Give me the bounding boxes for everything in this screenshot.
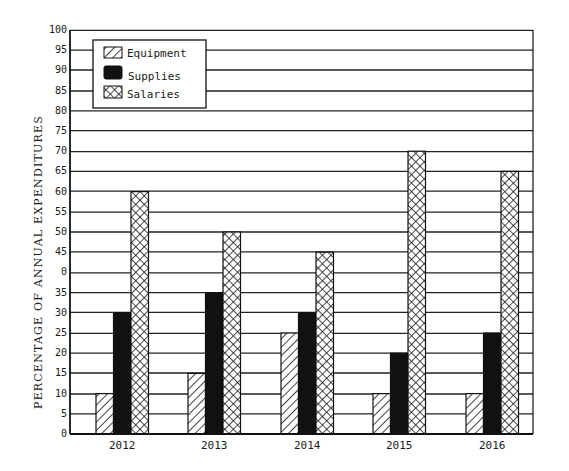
bar-supplies-2012 [114,313,132,434]
legend-item-equipment: Equipment [104,47,187,60]
bar-group-2016 [466,171,519,434]
bar-group-2014 [281,252,334,434]
bar-salaries-2014 [316,252,334,434]
bar-salaries-2016 [501,171,519,434]
bar-supplies-2016 [484,333,502,434]
crosshatch-swatch-icon [104,86,122,98]
bar-supplies-2015 [391,353,409,434]
y-tick-label: 20 [55,347,67,358]
bar-equipment-2014 [281,333,299,434]
y-tick-label: 5 [61,408,67,419]
y-tick-label: 25 [55,327,67,338]
bar-supplies-2013 [206,293,224,434]
y-tick-label: 35 [55,287,67,298]
y-tick-label: 95 [55,44,67,55]
x-tick-label: 2013 [201,439,228,452]
y-tick-label: 50 [55,226,67,237]
bar-equipment-2015 [373,394,391,434]
bar-salaries-2012 [131,192,149,434]
y-tick-label: 60 [55,186,67,197]
bar-supplies-2014 [299,313,317,434]
diagonal-hatch-swatch-icon [104,47,122,58]
y-tick-label: 100 [49,24,67,35]
x-tick-label: 2015 [386,439,413,452]
bar-equipment-2013 [188,373,206,434]
bar-equipment-2016 [466,394,484,434]
x-tick-label: 2014 [294,439,321,452]
legend-label: Salaries [127,88,180,101]
y-tick-label: 55 [55,206,67,217]
x-tick-label: 2012 [109,439,136,452]
y-tick-label: 15 [55,367,67,378]
x-tick-label: 2016 [479,439,506,452]
y-tick-label: 85 [55,85,67,96]
y-tick-label: 0 [61,266,67,277]
y-axis-title: PERCENTAGE OF ANNUAL EXPENDITURES [32,115,45,409]
y-tick-label: 0 [61,428,67,439]
bar-salaries-2013 [223,232,241,434]
y-tick-label: 90 [55,64,67,75]
legend-label: Equipment [127,47,187,60]
legend-label: Supplies [128,70,181,83]
legend: Equipment Supplies Salaries [93,40,206,108]
bar-equipment-2012 [96,394,114,434]
y-tick-label: 75 [55,125,67,136]
solid-black-swatch-icon [104,66,122,79]
y-tick-label: 30 [55,307,67,318]
y-axis-ticks: 0510152025303504550556065707580859095100 [49,24,67,439]
y-tick-label: 80 [55,105,67,116]
bar-salaries-2015 [408,151,426,434]
y-tick-label: 45 [55,246,67,257]
y-tick-label: 70 [55,145,67,156]
bar-chart: 0510152025303504550556065707580859095100… [0,0,569,471]
x-axis-ticks: 20122013201420152016 [109,439,506,452]
y-tick-label: 10 [55,388,67,399]
y-tick-label: 65 [55,165,67,176]
